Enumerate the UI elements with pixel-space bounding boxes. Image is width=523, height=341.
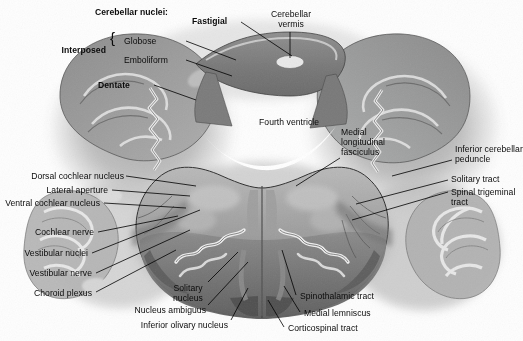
- figure-canvas: Cerebellar nuclei: Fastigial Interposed …: [0, 0, 523, 341]
- label-solitary-tract: Solitary tract: [451, 174, 499, 184]
- label-cerebellar-vermis: Cerebellar vermis: [260, 9, 322, 29]
- label-cerebellar-nuclei-heading: Cerebellar nuclei:: [95, 7, 168, 17]
- label-inferior-olivary-nucleus: Inferior olivary nucleus: [122, 320, 228, 330]
- label-vestibular-nerve: Vestibular nerve: [18, 268, 92, 278]
- label-vestibular-nuclei: Vestibular nuclei: [18, 248, 88, 258]
- label-interposed: Interposed: [38, 45, 106, 55]
- brace-icon: {: [110, 30, 115, 45]
- label-fastigial: Fastigial: [192, 16, 227, 26]
- label-choroid-plexus: Choroid plexus: [22, 288, 92, 298]
- label-inferior-cerebellar-peduncle: Inferior cerebellar peduncle: [455, 144, 523, 164]
- label-fourth-ventricle: Fourth ventricle: [259, 117, 319, 127]
- label-dentate: Dentate: [98, 80, 130, 90]
- label-emboliform: Emboliform: [124, 55, 168, 65]
- label-ventral-cochlear-nucleus: Ventral cochlear nucleus: [0, 198, 100, 208]
- label-spinal-trigeminal-tract: Spinal trigeminal tract: [451, 187, 515, 207]
- label-globose: Globose: [124, 36, 156, 46]
- label-nucleus-ambiguus: Nucleus ambiguus: [124, 305, 206, 315]
- label-corticospinal-tract: Corticospinal tract: [288, 323, 358, 333]
- label-dorsal-cochlear-nucleus: Dorsal cochlear nucleus: [14, 171, 124, 181]
- label-medial-lemniscus: Medial lemniscus: [304, 308, 371, 318]
- label-spinothalamic-tract: Spinothalamic tract: [300, 291, 374, 301]
- label-lateral-aperture: Lateral aperture: [22, 185, 108, 195]
- label-cochlear-nerve: Cochlear nerve: [22, 227, 94, 237]
- label-solitary-nucleus: Solitary nucleus: [166, 283, 210, 303]
- label-medial-longitudinal-fasciculus: Medial longitudinal fasciculus: [341, 127, 385, 158]
